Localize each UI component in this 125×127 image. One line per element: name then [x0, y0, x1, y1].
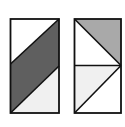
left-rectangle — [11, 19, 60, 113]
diagram-canvas — [0, 0, 125, 127]
right-rectangle — [75, 19, 122, 113]
